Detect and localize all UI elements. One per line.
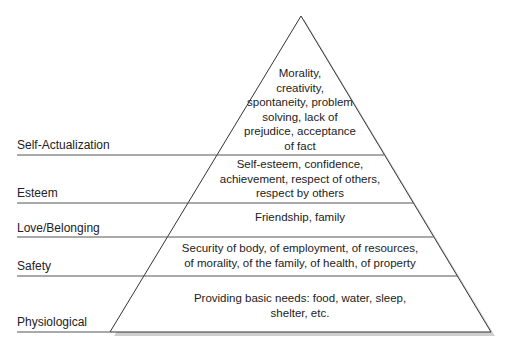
desc-safety: Security of body, of employment, of reso… bbox=[170, 241, 430, 270]
level-label-safety: Safety bbox=[17, 259, 51, 273]
level-label-love-belonging: Love/Belonging bbox=[17, 221, 100, 235]
level-label-esteem: Esteem bbox=[17, 186, 58, 200]
desc-self-actualization: Morality, creativity, spontaneity, probl… bbox=[220, 66, 380, 153]
desc-esteem: Self-esteem, confidence, achievement, re… bbox=[200, 157, 400, 201]
desc-physiological: Providing basic needs: food, water, slee… bbox=[170, 291, 430, 320]
desc-love-belonging: Friendship, family bbox=[200, 210, 400, 225]
level-label-physiological: Physiological bbox=[17, 315, 87, 329]
level-label-self-actualization: Self-Actualization bbox=[17, 138, 110, 152]
